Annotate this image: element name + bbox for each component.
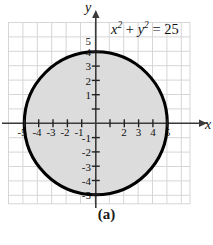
x-tick-label: -2 <box>60 126 69 138</box>
equation-equals: = <box>152 21 160 37</box>
y-tick-label: -4 <box>82 175 92 187</box>
y-tick-label: -1 <box>82 132 91 144</box>
y-tick-label: 3 <box>86 60 92 72</box>
equation-x-exponent: 2 <box>117 20 122 30</box>
x-tick-label: 4 <box>150 126 156 138</box>
y-tick-label: 4 <box>86 46 92 58</box>
x-tick-label: -5 <box>17 126 27 138</box>
x-tick-label: 3 <box>136 126 142 138</box>
equation-annotation: x2 + y2 = 25 <box>111 21 211 41</box>
x-tick-label: -4 <box>32 126 42 138</box>
figure-caption: (a) <box>0 206 213 223</box>
y-axis-arrow <box>92 10 99 18</box>
equation-rhs: 25 <box>164 21 179 37</box>
x-tick-label: 5 <box>165 126 171 138</box>
y-axis-label: y <box>85 0 91 16</box>
figure-circle-graph: -5 -4 -3 -2 -1 2 3 4 5 5 4 3 2 1 -1 -2 -… <box>0 0 213 245</box>
y-tick-label: 1 <box>86 89 92 101</box>
x-tick-label: -3 <box>46 126 56 138</box>
x-axis-label: x <box>205 117 211 133</box>
equation-plus: + <box>126 21 134 37</box>
y-tick-label: 2 <box>86 75 92 87</box>
y-tick-label: -3 <box>82 161 92 173</box>
y-tick-label: -2 <box>82 146 91 158</box>
equation-y-exponent: 2 <box>144 20 149 30</box>
x-tick-label: 2 <box>121 126 127 138</box>
y-tick-label: -5 <box>82 189 92 201</box>
